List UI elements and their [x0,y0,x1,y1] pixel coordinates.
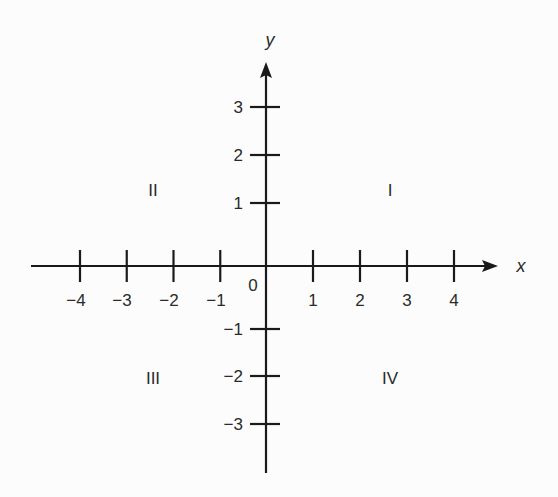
y-tick-label--1: −1 [224,320,243,339]
x-tick-label--3: −3 [112,291,131,310]
y-tick-label-3: 3 [234,98,243,117]
y-axis: y 3 2 1 −1 −2 −3 [224,30,280,473]
origin-label: 0 [248,276,257,295]
quadrant-label-ii: II [148,181,157,200]
x-tick-label--2: −2 [159,291,178,310]
x-tick-label--4: −4 [66,291,85,310]
y-axis-label: y [264,30,276,50]
coordinate-plane: x −4 −3 −2 −1 1 2 3 4 y 3 2 1 −1 [0,0,558,497]
x-tick-label-4: 4 [449,291,458,310]
quadrant-label-i: I [388,181,393,200]
x-tick-label--1: −1 [206,291,225,310]
x-tick-label-3: 3 [402,291,411,310]
x-tick-label-2: 2 [355,291,364,310]
x-tick-label-1: 1 [308,291,317,310]
x-axis-label: x [516,256,527,276]
x-axis: x −4 −3 −2 −1 1 2 3 4 [31,250,527,310]
y-tick-label-1: 1 [234,194,243,213]
quadrant-labels: I II III IV [146,181,399,388]
y-tick-label--3: −3 [224,415,243,434]
quadrant-label-iii: III [146,369,160,388]
y-tick-label-2: 2 [234,146,243,165]
quadrant-label-iv: IV [382,369,399,388]
y-tick-label--2: −2 [224,367,243,386]
